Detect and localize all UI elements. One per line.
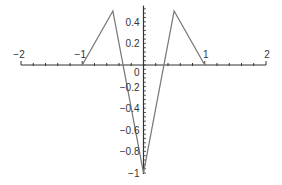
x-tick-labels: −2−112 xyxy=(13,49,270,60)
y-tick-label: −0.2 xyxy=(120,82,140,93)
x-tick-label: 1 xyxy=(203,49,209,60)
line-chart: −2−112 0.40.20−0.2−0.4−0.6−0.8−1 xyxy=(0,0,282,185)
y-tick-label: −1 xyxy=(128,168,140,179)
y-tick-label: 0 xyxy=(134,67,140,78)
y-tick-label: 0.4 xyxy=(126,17,140,28)
y-tick-label: 0.2 xyxy=(126,38,140,49)
y-axis xyxy=(144,6,147,174)
y-tick-label: −0.4 xyxy=(120,103,140,114)
y-tick-label: −0.6 xyxy=(120,125,140,136)
y-tick-label: −0.8 xyxy=(120,146,140,157)
x-tick-label: −1 xyxy=(75,49,87,60)
x-tick-label: 2 xyxy=(264,49,270,60)
x-tick-label: −2 xyxy=(13,49,25,60)
